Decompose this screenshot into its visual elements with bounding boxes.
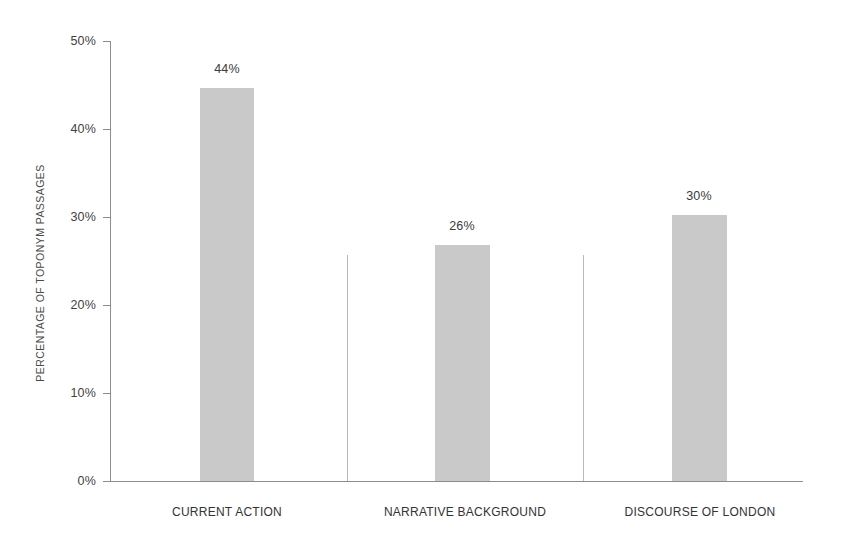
y-tick-label-50: 50% [70, 34, 96, 48]
category-label-narrative-background: NARRATIVE BACKGROUND [368, 505, 562, 519]
bar-narrative-background [435, 245, 490, 481]
category-separator-2 [583, 255, 584, 481]
bar-current-action [200, 88, 254, 481]
y-tick-label-0: 0% [78, 474, 96, 488]
y-axis-line [110, 41, 111, 482]
category-label-discourse-of-london: DISCOURSE OF LONDON [606, 505, 794, 519]
y-tick-mark-10 [103, 393, 110, 394]
category-label-current-action: CURRENT ACTION [137, 505, 317, 519]
x-axis-line [110, 481, 803, 482]
category-separator-1 [347, 255, 348, 481]
y-tick-mark-50 [103, 41, 110, 42]
y-tick-mark-40 [103, 129, 110, 130]
bar-value-label-discourse-of-london: 30% [669, 189, 729, 203]
bar-value-label-narrative-background: 26% [432, 219, 492, 233]
y-axis-title: PERCENTAGE OF TOPONYM PASSAGES [22, 0, 58, 546]
bar-discourse-of-london [672, 215, 727, 481]
y-tick-label-30: 30% [70, 210, 96, 224]
y-tick-label-20: 20% [70, 298, 96, 312]
y-tick-mark-0 [103, 481, 110, 482]
y-tick-label-10: 10% [70, 386, 96, 400]
bar-chart-figure: PERCENTAGE OF TOPONYM PASSAGES 0% 10% 20… [0, 0, 852, 546]
bar-value-label-current-action: 44% [197, 62, 257, 76]
y-tick-label-40: 40% [70, 122, 96, 136]
y-tick-mark-30 [103, 217, 110, 218]
y-tick-mark-20 [103, 305, 110, 306]
